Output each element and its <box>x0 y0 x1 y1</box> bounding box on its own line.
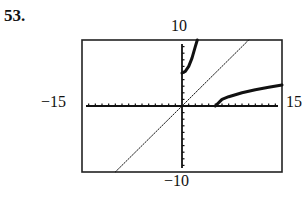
curve-0 <box>182 40 197 73</box>
curve-1 <box>215 85 282 106</box>
graph-plot <box>0 0 305 203</box>
